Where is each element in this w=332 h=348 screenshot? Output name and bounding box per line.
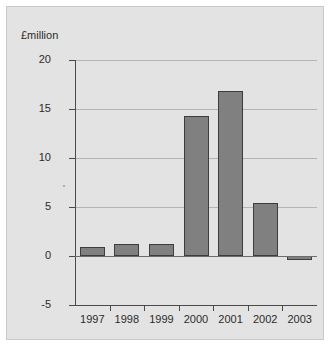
x-axis-line: [75, 305, 317, 306]
scan-speck: [63, 185, 65, 187]
y-tick-label: -5: [41, 298, 51, 310]
x-tick-mark: [179, 305, 180, 311]
bar: [218, 91, 243, 256]
bar: [114, 244, 139, 256]
gridline: [75, 109, 317, 110]
y-tick-label: 20: [39, 53, 51, 65]
bar: [149, 244, 174, 256]
y-axis-line: [75, 60, 76, 305]
y-tick-label: 15: [39, 102, 51, 114]
plot-area: 20151050-5 1997199819992000200120022003: [7, 7, 325, 341]
bar: [80, 247, 105, 256]
x-tick-mark: [144, 305, 145, 311]
gridline: [75, 60, 317, 61]
x-tick-mark: [248, 305, 249, 311]
y-tick-label: 5: [45, 200, 51, 212]
x-tick-mark: [282, 305, 283, 311]
x-tick-mark: [213, 305, 214, 311]
y-tick-label: 10: [39, 151, 51, 163]
bar: [184, 116, 209, 256]
x-tick-mark: [110, 305, 111, 311]
chart-figure: £million 20151050-5 19971998199920002001…: [6, 6, 324, 340]
x-tick-label: 2003: [280, 313, 320, 325]
y-tick-label: 0: [45, 249, 51, 261]
bar: [253, 203, 278, 256]
zero-baseline: [75, 256, 317, 257]
